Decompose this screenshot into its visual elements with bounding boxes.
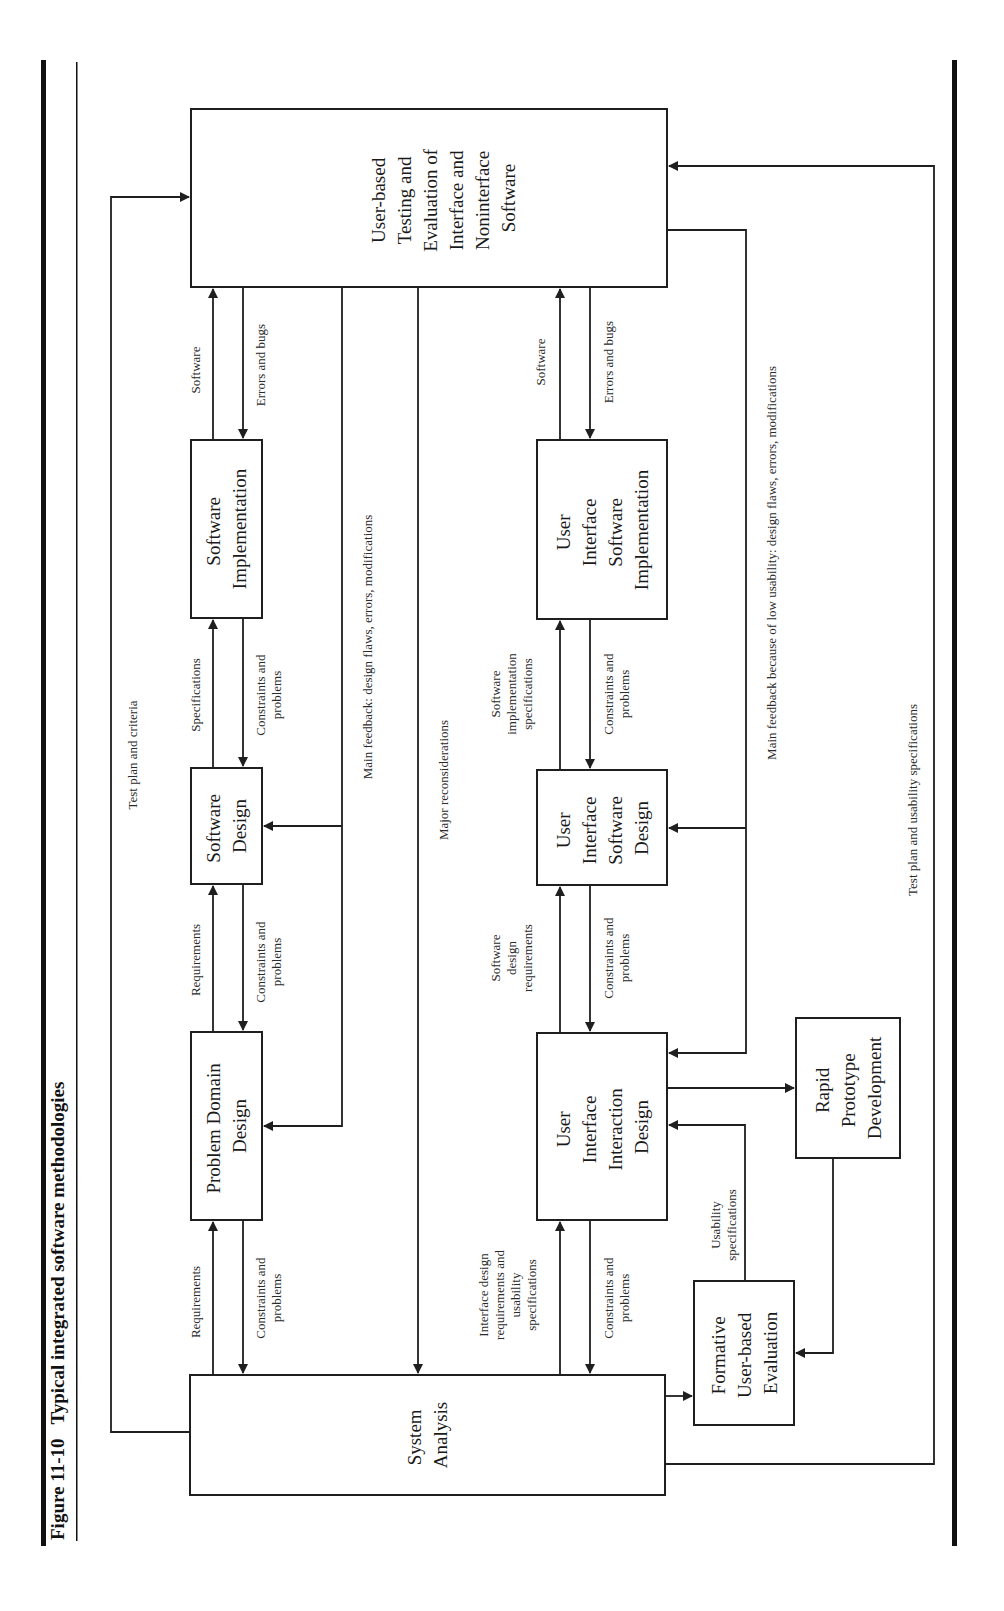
system-analysis-box: System Analysis	[190, 1375, 665, 1495]
figure-number: Figure 11-10	[47, 1438, 68, 1540]
ui-software-design-box: User Interface Software Design	[537, 770, 667, 885]
label-errors-bugs-top: Errors and bugs	[253, 324, 268, 406]
software-design-box: Software Design	[191, 768, 262, 884]
svg-text:Formative User-based: Formative User-based Evaluation	[708, 1308, 781, 1398]
main-feedback-bottom-line	[667, 230, 746, 1053]
arrow-prototype-to-formative	[796, 1158, 833, 1353]
label-software-top: Software	[188, 346, 203, 393]
ui-software-implementation-box: User Interface Software Implementation	[537, 440, 667, 619]
ui-interaction-design-box: User Interface Interaction Design	[537, 1033, 667, 1220]
rapid-prototype-box: Rapid Prototype Development	[796, 1018, 900, 1158]
software-implementation-box: Software Implementation	[191, 440, 262, 618]
left-thick-rule	[41, 60, 46, 1546]
test-plan-usability-loop	[665, 166, 934, 1464]
label-constraints-2: Constraints andproblems	[253, 921, 284, 1003]
label-errors-bugs-bottom: Errors and bugs	[601, 321, 616, 403]
label-test-plan-criteria: Test plan and criteria	[125, 700, 140, 809]
svg-text:Figure 11-10Typical integrated: Figure 11-10Typical integrated software …	[47, 1082, 68, 1540]
label-interface-design-reqs: Interface designrequirements andusabilit…	[476, 1250, 539, 1340]
problem-domain-design-box: Problem Domain Design	[191, 1032, 262, 1220]
left-thin-rule	[76, 62, 78, 1541]
figure-caption: Figure 11-10Typical integrated software …	[47, 1082, 68, 1540]
label-constraints-3: Constraints andproblems	[253, 654, 284, 736]
label-constraints-6: Constraints andproblems	[601, 653, 632, 735]
label-specifications: Specifications	[188, 658, 203, 732]
label-main-feedback-top: Main feedback: design flaws, errors, mod…	[360, 515, 375, 780]
label-main-feedback-bottom: Main feedback because of low usability: …	[764, 366, 779, 760]
label-constraints-4: Constraints andproblems	[601, 1257, 632, 1339]
right-thick-rule	[952, 60, 957, 1546]
label-sw-design-reqs: Softwaredesignrequirements	[488, 924, 535, 992]
formative-evaluation-box: Formative User-based Evaluation	[694, 1281, 794, 1425]
label-sw-impl-specs: Softwareimplementationspecifications	[488, 653, 535, 735]
label-constraints-5: Constraints andproblems	[601, 917, 632, 999]
label-constraints-1: Constraints andproblems	[253, 1257, 284, 1339]
diagram-canvas: Figure 11-10Typical integrated software …	[0, 0, 1004, 1611]
testing-evaluation-box: User-based Testing and Evaluation of Int…	[191, 109, 667, 287]
label-requirements-1: Requirements	[188, 1266, 203, 1338]
label-requirements-2: Requirements	[188, 924, 203, 996]
label-test-plan-usability: Test plan and usability specifications	[905, 704, 920, 896]
figure-title: Typical integrated software methodologie…	[47, 1082, 68, 1425]
label-software-bottom: Software	[533, 338, 548, 385]
test-plan-criteria-loop	[111, 197, 190, 1432]
label-usability-specs: Usabilityspecifications	[708, 1189, 739, 1260]
label-major-reconsiderations: Major reconsiderations	[436, 720, 451, 840]
